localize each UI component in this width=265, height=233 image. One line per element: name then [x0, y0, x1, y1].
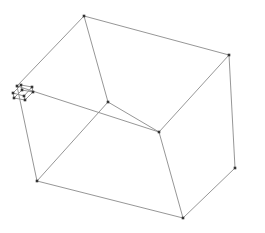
- small-cube-vertex: [24, 99, 27, 102]
- small-cube-vertex: [12, 92, 15, 95]
- edges: [13, 16, 235, 218]
- large-cube-edge: [108, 102, 159, 132]
- large-cube-vertex: [83, 15, 86, 18]
- large-cube-edge: [84, 16, 229, 55]
- large-cube-edge: [37, 102, 108, 181]
- small-cube-vertex: [13, 97, 16, 100]
- large-cube-vertex: [16, 85, 19, 88]
- large-cube-vertex: [234, 167, 237, 170]
- small-cube-vertex: [32, 91, 35, 94]
- large-cube-edge: [17, 16, 84, 86]
- vertices: [12, 15, 237, 220]
- large-cube-vertex: [107, 101, 110, 104]
- small-cube-edge: [21, 85, 32, 87]
- large-cube-vertex: [228, 54, 231, 57]
- small-cube-vertex: [20, 84, 23, 87]
- cube-diagram: [0, 0, 265, 233]
- large-cube-edge: [84, 16, 108, 102]
- large-cube-edge: [17, 86, 37, 181]
- large-cube-edge: [183, 168, 235, 218]
- large-cube-vertex: [158, 131, 161, 134]
- small-cube-vertex: [23, 95, 26, 98]
- large-cube-edge: [159, 132, 183, 218]
- large-cube-edge: [229, 55, 235, 168]
- large-cube-vertex: [182, 217, 185, 220]
- small-cube-vertex: [21, 89, 24, 92]
- large-cube-vertex: [36, 180, 39, 183]
- large-cube-edge: [37, 181, 183, 218]
- small-cube-vertex: [31, 86, 34, 89]
- large-cube-edge: [159, 55, 229, 132]
- large-cube-edge: [17, 86, 159, 132]
